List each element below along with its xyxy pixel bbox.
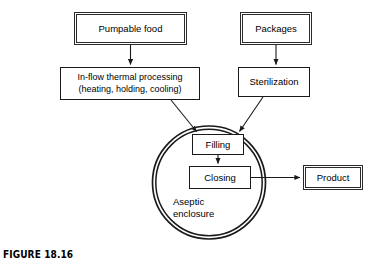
node-closing: Closing	[189, 166, 251, 189]
node-in-flow-thermal-processing: In-flow thermal processing (heating, hol…	[60, 67, 200, 100]
node-product: Product	[303, 165, 363, 190]
node-packages: Packages	[240, 12, 312, 45]
node-sterilization: Sterilization	[238, 67, 310, 97]
node-filling: Filling	[192, 134, 244, 155]
edge-sterilization-to-filling	[240, 97, 264, 132]
aseptic-enclosure-label: Aseptic enclosure	[173, 196, 249, 219]
figure-diagram: Pumpable food Packages In-flow thermal p…	[0, 0, 391, 270]
edge-thermal-processing-to-filling	[171, 100, 197, 132]
figure-caption: FIGURE 18.16	[3, 248, 73, 260]
node-pumpable-food: Pumpable food	[74, 12, 187, 45]
